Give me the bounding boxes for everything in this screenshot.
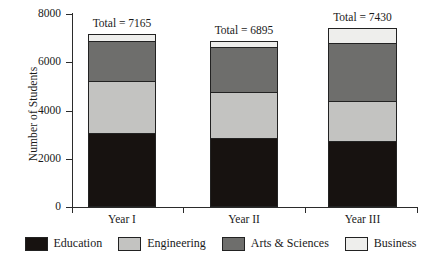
legend-item[interactable]: Business	[345, 236, 417, 251]
legend-swatch-icon	[118, 237, 141, 251]
bar-total-label: Total = 7165	[62, 17, 182, 29]
bar-total-label: Total = 6895	[184, 24, 304, 36]
bar-segment	[329, 101, 396, 141]
stacked-bar	[210, 41, 278, 207]
legend-label: Business	[374, 236, 417, 251]
x-axis-label-year-ii: Year II	[184, 213, 304, 225]
legend-swatch-icon	[222, 237, 245, 251]
stacked-bar-chart: Number of Students 02000400060008000 Tot…	[0, 0, 441, 269]
y-axis-tick-label: 0	[55, 200, 66, 212]
legend-item[interactable]: Engineering	[118, 236, 206, 251]
bar-segment	[89, 41, 155, 81]
bar-segment	[89, 81, 155, 132]
y-axis-tick-label: 6000	[38, 55, 66, 67]
legend-label: Engineering	[147, 236, 206, 251]
stacked-bar	[88, 34, 156, 207]
legend-swatch-icon	[345, 237, 368, 251]
bar-segment	[211, 92, 277, 137]
bar-total-label: Total = 7430	[303, 11, 423, 23]
legend-item[interactable]: Education	[25, 236, 103, 251]
bar-segment	[329, 43, 396, 101]
plot-area	[72, 14, 417, 207]
x-axis-label-year-iii: Year III	[303, 213, 423, 225]
bar-segment	[329, 29, 396, 43]
y-axis-tick-label: 4000	[38, 104, 66, 116]
x-axis-label-year-i: Year I	[62, 213, 182, 225]
x-axis-line	[72, 207, 418, 208]
bar-segment	[211, 47, 277, 92]
bar-segment	[329, 141, 396, 206]
legend-label: Arts & Sciences	[251, 236, 329, 251]
bar-segment	[89, 133, 155, 206]
y-axis-tick-label: 2000	[38, 152, 66, 164]
legend-item[interactable]: Arts & Sciences	[222, 236, 329, 251]
legend-swatch-icon	[25, 237, 48, 251]
bar-segment	[211, 138, 277, 206]
legend-label: Education	[54, 236, 103, 251]
stacked-bar	[328, 28, 397, 207]
chart-legend: EducationEngineeringArts & SciencesBusin…	[0, 236, 441, 251]
